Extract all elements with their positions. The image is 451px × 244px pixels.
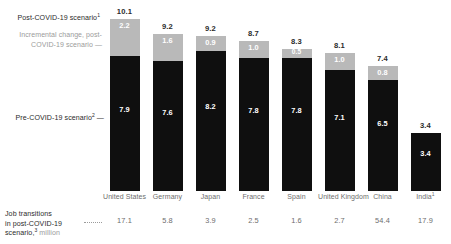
bar-segment-pre-covid-value: 7.8 (239, 106, 269, 115)
bar-segment-pre-covid: 7.8 (239, 58, 269, 191)
bar-segment-pre-covid-value: 7.9 (110, 105, 140, 114)
bar-segment-pre-covid: 7.8 (282, 58, 312, 191)
bar-total-value: 8.7 (233, 29, 275, 38)
bar-stack: 1.07.1 (325, 53, 355, 191)
job-transitions-value: 2.5 (232, 216, 275, 225)
bar-segment-pre-covid-value: 7.1 (325, 113, 355, 122)
bar-total-value: 10.1 (104, 7, 146, 16)
bar-segment-incremental-value: 1.0 (239, 43, 269, 52)
job-transitions-values-row: 17.15.83.92.51.62.754.417.9 (103, 216, 447, 228)
bar-segment-pre-covid-value: 7.6 (153, 108, 183, 117)
category-label: Japan (189, 193, 232, 200)
footer-leader-line (84, 222, 102, 223)
bar-segment-pre-covid: 8.2 (196, 51, 226, 191)
bar-stack: 0.86.5 (368, 66, 398, 191)
category-label: France (232, 193, 275, 200)
job-transitions-line3: scenario, (5, 229, 34, 237)
job-transitions-value: 5.8 (146, 216, 189, 225)
bar-total-value: 8.1 (319, 41, 361, 50)
bar-segment-incremental-value: 2.2 (110, 21, 140, 30)
bar-total-value: 8.3 (276, 37, 318, 46)
job-transitions-value: 1.6 (275, 216, 318, 225)
bar-stack: 1.67.6 (153, 34, 183, 191)
plot-area: 10.12.27.99.21.67.69.20.98.28.71.07.88.3… (103, 10, 447, 191)
category-label: India1 (404, 193, 447, 200)
bar-total-value: 9.2 (190, 24, 232, 33)
bar-segment-pre-covid: 7.9 (110, 56, 140, 191)
job-transitions-value: 54.4 (361, 216, 404, 225)
category-label: United Kingdom (318, 193, 361, 200)
legend-post-covid-label: Post-COVID-19 scenario1 (0, 14, 100, 23)
bar-stack: 1.07.8 (239, 41, 269, 191)
legend-post-covid-footnote: 1 (97, 12, 100, 18)
legend-pre-covid-text: Pre-COVID-19 scenario (16, 114, 92, 122)
bar-segment-pre-covid: 7.1 (325, 70, 355, 191)
bar-segment-incremental-value: 0.8 (368, 68, 398, 77)
bar-total-value: 3.4 (405, 121, 447, 130)
legend-incremental-label: Incremental change, post-COVID-19 scenar… (0, 30, 102, 49)
category-label: United States (103, 193, 146, 200)
bar-segment-incremental: 0.9 (196, 36, 226, 51)
job-transitions-label: Job transitions in post-COVID-19 scenari… (5, 210, 83, 239)
job-transitions-unit: million (37, 229, 60, 237)
bar-stack: 2.27.9 (110, 19, 140, 191)
bar-segment-pre-covid: 7.6 (153, 61, 183, 191)
bar-segment-pre-covid-value: 3.4 (411, 149, 441, 158)
bar-segment-incremental-value: 0.9 (196, 38, 226, 47)
bar-total-value: 9.2 (147, 22, 189, 31)
bar-segment-pre-covid: 3.4 (411, 133, 441, 191)
bar-segment-incremental-value: 0.5 (282, 48, 312, 55)
bar-segment-pre-covid-value: 7.8 (282, 106, 312, 115)
bar-stack: 3.4 (411, 133, 441, 191)
bar-segment-incremental-value: 1.0 (325, 55, 355, 64)
bar-segment-pre-covid: 6.5 (368, 80, 398, 191)
job-transitions-value: 17.1 (103, 216, 146, 225)
bar-total-value: 7.4 (362, 54, 404, 63)
category-label-footnote: 1 (432, 191, 435, 197)
chart-container: Post-COVID-19 scenario1 Incremental chan… (0, 0, 451, 244)
bar-stack: 0.98.2 (196, 36, 226, 191)
category-label: China (361, 193, 404, 200)
bar-segment-incremental: 1.6 (153, 34, 183, 61)
bar-segment-pre-covid-value: 6.5 (368, 119, 398, 128)
legend-post-covid-text: Post-COVID-19 scenario (18, 14, 98, 22)
category-label: Germany (146, 193, 189, 200)
bar-segment-pre-covid-value: 8.2 (196, 102, 226, 111)
job-transitions-line1: Job transitions (5, 210, 52, 218)
job-transitions-value: 17.9 (404, 216, 447, 225)
bar-stack: 0.57.8 (282, 49, 312, 191)
category-label: Spain (275, 193, 318, 200)
job-transitions-value: 3.9 (189, 216, 232, 225)
bar-segment-incremental: 0.5 (282, 49, 312, 58)
bar-segment-incremental: 0.8 (368, 66, 398, 80)
bar-segment-incremental-value: 1.6 (153, 36, 183, 45)
bar-segment-incremental: 2.2 (110, 19, 140, 57)
legend-pre-covid-label: Pre-COVID-19 scenario2 — (0, 114, 104, 123)
bar-segment-incremental: 1.0 (325, 53, 355, 70)
bar-segment-incremental: 1.0 (239, 41, 269, 58)
job-transitions-value: 2.7 (318, 216, 361, 225)
category-axis: United StatesGermanyJapanFranceSpainUnit… (103, 193, 447, 205)
